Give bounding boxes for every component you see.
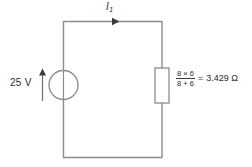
fraction-denominator: 8 + 6 bbox=[176, 79, 195, 87]
current-label: I1 bbox=[106, 2, 113, 13]
resistor-symbol bbox=[155, 68, 169, 103]
fraction-numerator: 8 × 6 bbox=[176, 70, 195, 78]
source-polarity-arrowhead bbox=[39, 69, 46, 76]
equals-sign: = bbox=[198, 74, 203, 83]
current-direction-arrowhead bbox=[112, 18, 120, 25]
resistance-value: 3.429 Ω bbox=[206, 74, 238, 83]
resistance-expression: 8 × 6 8 + 6 = 3.429 Ω bbox=[176, 70, 238, 88]
resistance-fraction: 8 × 6 8 + 6 bbox=[176, 70, 195, 88]
circuit-diagram-canvas: 25 V I1 8 × 6 8 + 6 = 3.429 Ω bbox=[0, 0, 252, 167]
voltage-source-label: 25 V bbox=[10, 78, 32, 88]
current-subscript: 1 bbox=[109, 6, 113, 13]
